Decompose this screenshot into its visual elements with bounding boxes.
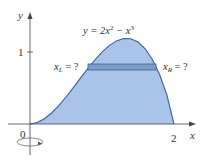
origin-label: 0 (20, 128, 26, 140)
horizontal-strip (88, 64, 156, 70)
diagram-canvas: y x 1 0 2 y = 2x2 − x3 xL = ? xR = ? (0, 0, 206, 160)
y-tick-label: 1 (18, 46, 24, 58)
eq-sup2: 3 (130, 24, 134, 32)
eq-lhs: y = 2x (82, 25, 110, 36)
y-axis-arrow-icon (28, 12, 33, 19)
x-axis-label: x (189, 129, 195, 141)
eq-mid: − x (113, 25, 130, 36)
x-tick-label: 2 (171, 132, 177, 144)
xl-label: xL = ? (53, 61, 79, 74)
y-axis-label: y (17, 9, 23, 21)
x-axis-arrow-icon (189, 122, 196, 127)
curve-equation: y = 2x2 − x3 (82, 24, 134, 36)
xr-label: xR = ? (162, 61, 188, 74)
xl-rest: = ? (63, 61, 79, 72)
xr-rest: = ? (172, 61, 188, 72)
